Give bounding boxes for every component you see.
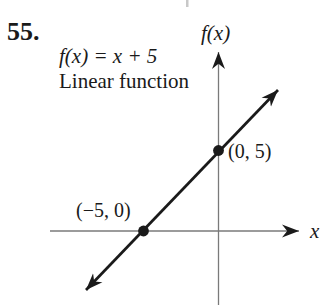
y-intercept-label: (0, 5) xyxy=(228,140,271,163)
equation-label: f(x) = x + 5 xyxy=(59,44,157,68)
textbook-figure: 55. f(x) = x + 5 Linear function f(x) x … xyxy=(0,0,323,305)
crop-artifact-mark xyxy=(186,0,189,7)
graph-canvas: 55. f(x) = x + 5 Linear function f(x) x … xyxy=(0,0,323,305)
function-line xyxy=(86,90,278,290)
point-y-intercept xyxy=(213,145,224,156)
problem-number: 55. xyxy=(7,17,40,46)
y-axis-label: f(x) xyxy=(201,21,230,45)
x-intercept-label: (−5, 0) xyxy=(76,199,131,222)
x-axis-label: x xyxy=(309,219,320,243)
function-type-label: Linear function xyxy=(59,69,190,93)
point-x-intercept xyxy=(138,226,149,237)
